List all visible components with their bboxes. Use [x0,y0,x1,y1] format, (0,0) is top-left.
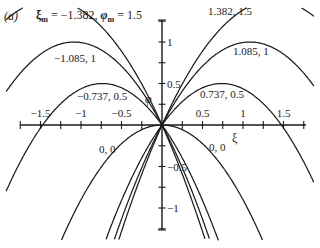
x-tick-label: 0.5 [196,107,210,119]
title-annotation: ξm = −1.382, φm = 1.5 [36,8,142,24]
y-axis-label: φ [145,92,152,106]
label-neg1085-1: −1.085, 1 [54,52,96,64]
x-tick-label: −1 [75,107,87,119]
y-tick-label: 1 [167,36,173,48]
label-00-left: 0, 0 [99,143,116,155]
panel-label: (a) [4,9,18,23]
x-tick-label: 1.5 [277,107,291,119]
chart-figure: (a) ξm = −1.382, φm = 1.5 φ ξ −1.5−1−0.5… [0,0,320,248]
x-tick-label: 1 [240,107,246,119]
curves [6,8,313,240]
x-tick-label: −0.5 [112,107,132,119]
y-tick-label: −1 [167,202,179,214]
label-neg0737-05: −0.737, 0.5 [77,90,128,102]
label-0737-05: 0.737, 0.5 [200,88,245,100]
label-00-right: 0, 0 [209,141,226,153]
label-1085-1: 1.085, 1 [233,45,269,57]
x-axis-label: ξ [232,131,238,145]
x-tick-label: −1.5 [31,107,51,119]
y-tick-label: −0.5 [167,161,187,173]
curve-series-1 [6,42,209,238]
x-tick-labels: −1.5−1−0.50.511.5 [31,107,291,119]
label-1382-15: 1.382, 1.5 [208,5,253,17]
y-tick-label: 0.5 [167,78,181,90]
curve-series-7 [119,8,314,239]
